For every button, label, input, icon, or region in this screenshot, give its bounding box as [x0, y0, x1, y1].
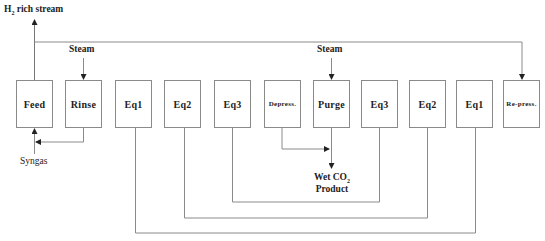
step-eq1-a: Eq1 — [115, 80, 152, 128]
step-eq2-a: Eq2 — [164, 80, 201, 128]
eq2-link-line — [185, 122, 428, 218]
step-rinse: Rinse — [65, 80, 102, 128]
h2-rich-stream-label: H2 rich stream — [4, 4, 63, 16]
step-depress: Depress. — [264, 80, 301, 128]
wet-co2-product-label: Wet CO2 Product — [308, 172, 356, 194]
rinse-recycle-line — [36, 128, 84, 142]
step-eq3-a: Eq3 — [214, 80, 251, 128]
feed-to-repress-line — [35, 42, 523, 79]
syngas-label: Syngas — [20, 156, 47, 166]
steam-rinse-label: Steam — [69, 44, 94, 54]
step-feed: Feed — [16, 80, 53, 128]
step-repress: Re-press. — [503, 80, 540, 128]
eq3-link-line — [233, 122, 380, 202]
depress-co2-line — [282, 128, 329, 149]
step-purge: Purge — [313, 80, 350, 128]
steam-purge-label: Steam — [317, 44, 342, 54]
step-eq3-b: Eq3 — [361, 80, 398, 128]
step-eq2-b: Eq2 — [409, 80, 446, 128]
eq1-link-line — [136, 122, 476, 233]
step-eq1-b: Eq1 — [456, 80, 493, 128]
